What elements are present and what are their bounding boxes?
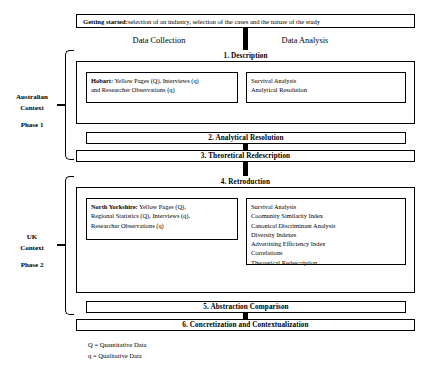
getting-started-label: Getting started:: [83, 18, 128, 25]
phase-2-data-analysis-box: Survival Analysis Coomunity Similarity I…: [246, 198, 406, 265]
phase-1-data-collection-box: Hobart: Yellow Pages (Q), Interviews (q)…: [86, 72, 238, 103]
phase-1-side-label: Australian Context Phase 1: [4, 92, 60, 131]
phase-1-collection-line1: Yellow Pages (Q), Interviews (q): [113, 77, 199, 84]
phase-1-context-line2: Context: [20, 104, 44, 112]
phase-2-collection-line1: Yellow Pages (Q),: [138, 203, 186, 210]
phase-1-collection-line2: and Researcher Observations (q): [91, 85, 233, 94]
stage-bar-theoretical-redescription: 3. Theoretical Redescription: [76, 150, 415, 162]
stage-bar-description: 1. Description: [76, 50, 415, 62]
stage-bar-analytical-resolution: 2. Analytical Resolution: [86, 132, 406, 144]
phase-2-context-line2: Context: [20, 244, 44, 252]
phase-2-data-collection-box: North Yorkshire: Yellow Pages (Q), Regio…: [86, 198, 238, 240]
phase-1-data-analysis-box: Survival Analysis Analytical Resolution: [246, 72, 406, 103]
phase-1-analysis-item: Survival Analysis: [251, 76, 401, 85]
connector-phase1-to-phase2: [243, 162, 248, 176]
getting-started-text: selection of an industry, selection of t…: [128, 18, 320, 25]
phase-1-context-line1: Australian: [16, 93, 48, 101]
stage-bar-abstraction-comparison: 5. Abstraction Comparison: [86, 301, 406, 313]
phase-1-analysis-item: Analytical Resolution: [251, 85, 401, 94]
research-design-diagram: Getting started: selection of an industr…: [0, 0, 429, 369]
phase-1-collection-lead: Hobart:: [91, 77, 113, 84]
phase-1-phase-label: Phase 1: [21, 121, 44, 129]
column-header-data-collection: Data Collection: [104, 36, 214, 45]
phase-2-analysis-item: Theoretical Redescription: [251, 258, 401, 267]
legend-qualitative: q = Qualitative Data: [88, 351, 146, 362]
phase-2-collection-lead: North Yorkshire:: [91, 203, 138, 210]
legend-quantitative: Q = Quantitative Data: [88, 340, 146, 351]
phase-2-collection-line2: Regional Statistics (Q), Interviews (q),: [91, 211, 233, 220]
phase-2-analysis-item: Coomunity Similarity Index: [251, 211, 401, 220]
getting-started-banner: Getting started: selection of an industr…: [76, 14, 415, 28]
phase-2-analysis-item: Survival Analysis: [251, 202, 401, 211]
phase-2-analysis-item: Diversity Indexes: [251, 230, 401, 239]
stage-bar-retroduction: 4. Retroduction: [76, 176, 415, 188]
phase-2-phase-label: Phase 2: [21, 261, 44, 269]
phase-2-analysis-item: Advertising Efficiency Index: [251, 239, 401, 248]
phase-2-analysis-item: Correlations: [251, 248, 401, 257]
phase-1-bracket: [65, 50, 74, 160]
phase-2-collection-line3: Researcher Observations (q): [91, 221, 233, 230]
phase-2-bracket: [65, 176, 74, 315]
phase-2-analysis-item: Canonical Discriminant Analysis: [251, 221, 401, 230]
stage-bar-concretization: 6. Concretization and Contextualization: [76, 319, 415, 331]
phase-2-context-line1: UK: [27, 233, 38, 241]
phase-2-side-label: UK Context Phase 2: [4, 232, 60, 271]
connector-banner-to-description: [243, 28, 248, 50]
legend: Q = Quantitative Data q = Qualitative Da…: [88, 340, 146, 361]
column-header-data-analysis: Data Analysis: [250, 36, 360, 45]
